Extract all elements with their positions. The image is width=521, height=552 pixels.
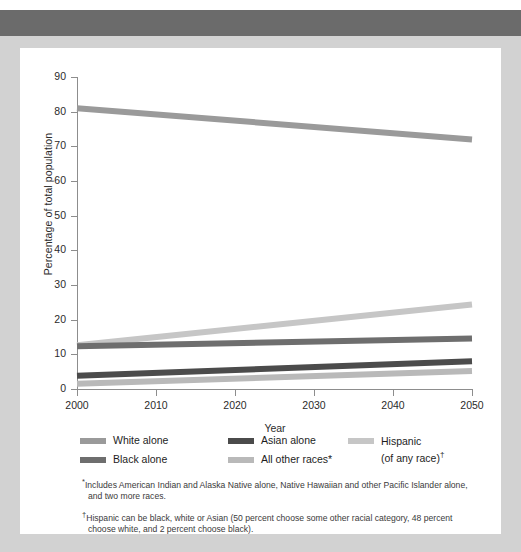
legend-item-black-alone: Black alone [80,453,168,466]
legend-label: All other races* [261,453,332,466]
legend-swatch [80,457,106,463]
page-root: Percentage of total population 908070605… [0,0,521,552]
footnote-dagger: †Hispanic can be black, white or Asian (… [82,509,472,536]
legend-column-1: White aloneBlack alone [80,434,168,472]
header-bar [0,10,521,36]
legend-label: White alone [113,434,168,447]
legend-label: Asian alone [261,434,316,447]
top-white-strip [0,0,521,10]
legend-swatch [228,457,254,463]
line-chart: Percentage of total population 908070605… [20,48,501,478]
legend-label-hispanic-line1: Hispanic [381,434,444,448]
legend-dagger-mark: † [440,450,444,459]
figure-card: Percentage of total population 908070605… [20,48,501,534]
legend-item-hispanic: Hispanic (of any race)† [348,434,444,465]
series-line-white-alone [77,108,472,139]
x-axis-title: Year [77,422,473,434]
legend-column-3: Hispanic (of any race)† [348,434,444,465]
footnote-asterisk: *Includes American Indian and Alaska Nat… [82,476,472,503]
series-lines [20,48,501,478]
legend-swatch-hispanic [348,438,374,444]
footnote-asterisk-line2: and two more races. [88,491,472,502]
footnote-asterisk-line1: Includes American Indian and Alaska Nati… [85,480,468,490]
legend-item-white-alone: White alone [80,434,168,447]
chart-legend: White aloneBlack alone Asian aloneAll ot… [80,434,480,474]
legend-column-2: Asian aloneAll other races* [228,434,332,472]
footnote-group: *Includes American Indian and Alaska Nat… [82,476,472,541]
legend-item-asian-alone: Asian alone [228,434,332,447]
legend-label-hispanic-line2: (of any race)† [381,448,444,465]
legend-swatch [228,438,254,444]
footnote-dagger-line2: choose white, and 2 percent choose black… [88,524,472,535]
legend-swatch [80,438,106,444]
footnote-dagger-line1: Hispanic can be black, white or Asian (5… [86,513,452,523]
legend-label: Black alone [113,453,167,466]
legend-item-all-other-races: All other races* [228,453,332,466]
